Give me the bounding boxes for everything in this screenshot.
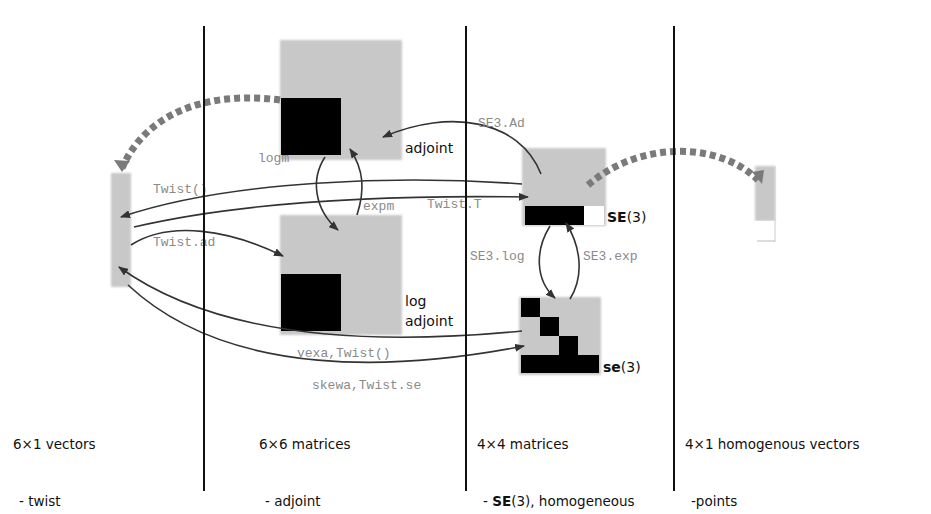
column-divider-1 xyxy=(203,26,205,491)
caption-title: 4×4 matrices xyxy=(477,435,635,454)
label-twist-ctor: Twist() xyxy=(153,182,208,197)
caption-6x6-matrices: 6×6 matrices - adjoint - log adjoint xyxy=(259,397,351,514)
label-log-adjoint: adjoint xyxy=(405,313,454,329)
adjoint-matrix-6x6 xyxy=(280,40,402,160)
caption-title: 6×1 vectors xyxy=(13,435,161,454)
caption-item: - SE(3), homogeneous xyxy=(477,492,635,511)
label-skewa-twist-se: skewa,Twist.se xyxy=(312,378,421,393)
label-logm: logm xyxy=(258,151,289,166)
column-divider-2 xyxy=(465,26,467,491)
caption-4x4-matrices: 4×4 matrices - SE(3), homogeneous - se(3… xyxy=(477,397,635,514)
caption-item: - twist xyxy=(13,492,161,511)
label-log: log xyxy=(405,293,426,309)
label-vexa-twist: vexa,Twist() xyxy=(297,346,391,361)
se3-matrix-4x4 xyxy=(519,297,601,375)
label-twist-ad: Twist.ad xyxy=(153,235,215,250)
label-se3: se(3) xyxy=(603,359,641,375)
caption-6x1-vectors: 6×1 vectors - twist - velocity twist - w… xyxy=(13,397,161,514)
caption-title: 4×1 homogenous vectors xyxy=(685,435,859,454)
caption-item: - adjoint xyxy=(259,492,351,511)
caption-title: 6×6 matrices xyxy=(259,435,351,454)
caption-4x1-vectors: 4×1 homogenous vectors -points xyxy=(685,397,859,514)
label-SE3-Ad: SE3.Ad xyxy=(478,116,525,131)
column-divider-3 xyxy=(673,26,675,491)
caption-item: -points xyxy=(685,492,859,511)
dotted-arrow-adjoint-to-twist xyxy=(114,98,280,172)
label-adjoint: adjoint xyxy=(405,140,454,156)
label-SE3: SE(3) xyxy=(607,209,647,225)
label-twist-T: Twist.T xyxy=(427,197,482,212)
log-adjoint-matrix-6x6 xyxy=(280,215,402,335)
label-SE3-exp: SE3.exp xyxy=(583,249,638,264)
label-SE3-log: SE3.log xyxy=(470,249,525,264)
twist-vector-6x1 xyxy=(111,173,131,287)
label-expm: expm xyxy=(363,199,394,214)
